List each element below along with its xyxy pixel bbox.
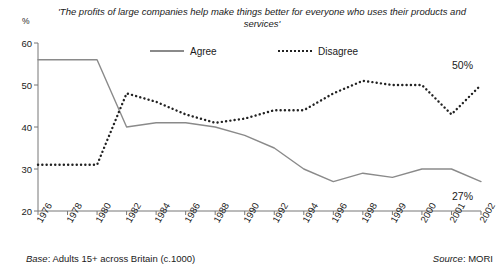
legend-item-disagree: Disagree <box>278 44 358 58</box>
legend-swatch-disagree-dotted-line-icon <box>278 50 312 52</box>
series-end-label-agree: 27% <box>452 190 473 202</box>
chart-plot-area <box>0 0 501 269</box>
chart-base-note: Base: Adults 15+ across Britain (c.1000) <box>26 253 195 264</box>
chart-axes <box>38 43 481 211</box>
y-axis-tick-labels: 2030405060 <box>10 0 32 269</box>
chart-title: 'The profits of large companies help mak… <box>52 6 472 29</box>
y-axis-tick-label: 60 <box>10 38 32 49</box>
y-axis-tick-label: 30 <box>10 164 32 175</box>
base-prefix: Base <box>26 253 48 264</box>
legend-item-agree: Agree <box>150 44 217 58</box>
chart-series-line-disagree <box>38 81 481 165</box>
legend-label-disagree: Disagree <box>318 46 358 57</box>
y-axis-tick-label: 40 <box>10 122 32 133</box>
legend-label-agree: Agree <box>190 46 217 57</box>
source-text: : MORI <box>463 253 493 264</box>
series-end-label-disagree: 50% <box>452 59 473 71</box>
chart-legend: Agree Disagree <box>150 44 380 60</box>
chart-source-note: Source: MORI <box>433 253 493 264</box>
y-axis-tick-label: 50 <box>10 80 32 91</box>
chart-container: 'The profits of large companies help mak… <box>0 0 501 269</box>
legend-swatch-agree-solid-line-icon <box>150 50 184 52</box>
source-prefix: Source <box>433 253 463 264</box>
y-axis-tick-label: 20 <box>10 206 32 217</box>
base-text: : Adults 15+ across Britain (c.1000) <box>48 253 196 264</box>
chart-series-line-agree <box>38 60 481 182</box>
